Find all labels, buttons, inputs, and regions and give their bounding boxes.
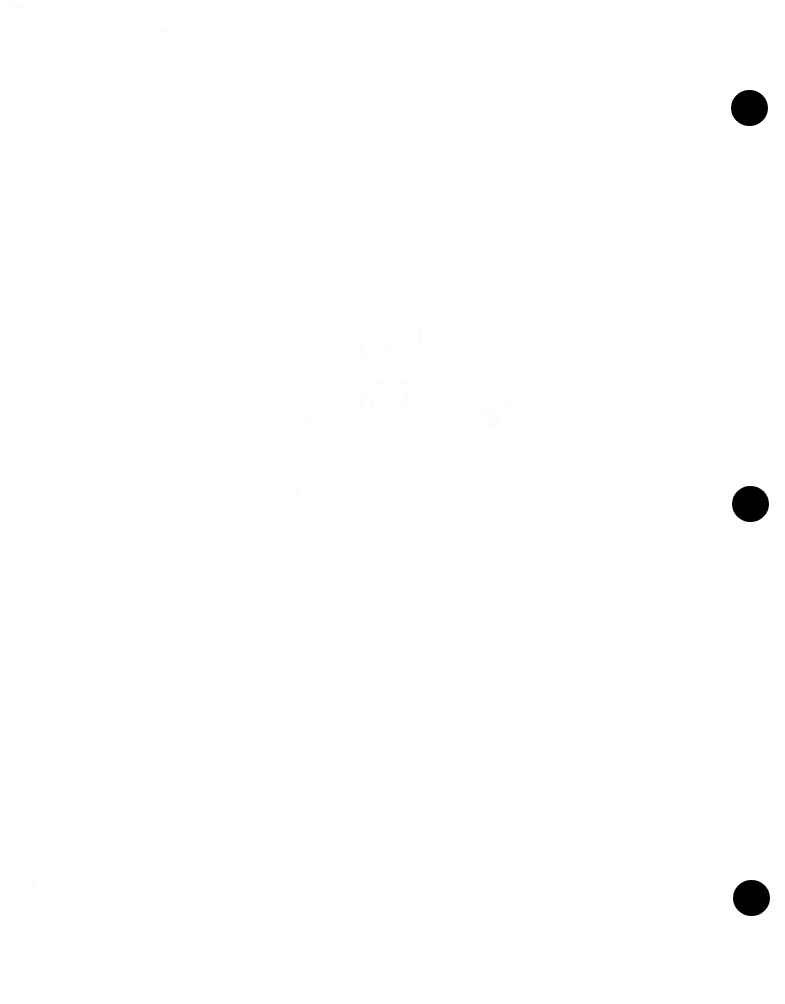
page-content-area bbox=[70, 70, 670, 934]
binder-punch-hole-middle bbox=[732, 486, 769, 522]
scanned-page bbox=[0, 0, 785, 1004]
binder-punch-hole-bottom bbox=[733, 880, 770, 916]
binder-punch-hole-top bbox=[731, 90, 768, 126]
